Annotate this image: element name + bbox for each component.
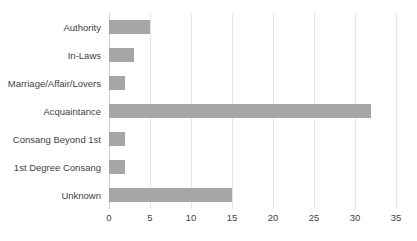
bar-row — [109, 125, 396, 153]
y-axis-tick-label: Consang Beyond 1st — [0, 125, 105, 153]
bar[interactable] — [109, 188, 232, 202]
x-axis-tick-label: 30 — [350, 212, 361, 224]
y-axis-tick-label: Unknown — [0, 181, 105, 209]
bar-series — [109, 13, 396, 209]
x-axis-tick-label: 0 — [106, 212, 111, 224]
bar-row — [109, 97, 396, 125]
bar-row — [109, 41, 396, 69]
y-axis-tick-label: Authority — [0, 13, 105, 41]
bar[interactable] — [109, 76, 125, 90]
y-axis-tick-label: Acquaintance — [0, 97, 105, 125]
y-axis-tick-label: 1st Degree Consang — [0, 153, 105, 181]
bar[interactable] — [109, 160, 125, 174]
bar-row — [109, 69, 396, 97]
x-axis-labels: 05101520253035 — [109, 212, 396, 228]
x-axis-tick-label: 20 — [268, 212, 279, 224]
plot-area — [109, 13, 396, 209]
bar[interactable] — [109, 104, 371, 118]
x-axis-tick-label: 15 — [227, 212, 238, 224]
x-axis-tick-label: 5 — [147, 212, 152, 224]
chart-title-sliver — [0, 0, 417, 6]
x-axis-tick-label: 35 — [391, 212, 402, 224]
gridline-35 — [396, 13, 397, 209]
bar-row — [109, 13, 396, 41]
bar[interactable] — [109, 132, 125, 146]
y-axis-tick-label: In-Laws — [0, 41, 105, 69]
bar[interactable] — [109, 48, 134, 62]
x-axis-tick-label: 10 — [186, 212, 197, 224]
bar[interactable] — [109, 20, 150, 34]
bar-chart: AuthorityIn-LawsMarriage/Affair/LoversAc… — [0, 0, 417, 241]
y-axis-labels: AuthorityIn-LawsMarriage/Affair/LoversAc… — [0, 13, 105, 209]
bar-row — [109, 181, 396, 209]
x-axis-tick-label: 25 — [309, 212, 320, 224]
bar-row — [109, 153, 396, 181]
y-axis-tick-label: Marriage/Affair/Lovers — [0, 69, 105, 97]
